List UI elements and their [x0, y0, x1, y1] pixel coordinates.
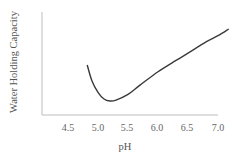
- x-tick-label: 5.0: [92, 122, 105, 133]
- chart-plot: [0, 0, 232, 162]
- y-axis-label: Water Holding Capacity: [8, 11, 19, 113]
- x-tick-label: 6.5: [181, 122, 194, 133]
- x-axis-label: pH: [119, 141, 132, 152]
- x-tick-label: 7.0: [212, 122, 225, 133]
- data-line: [87, 29, 229, 101]
- x-tick-label: 5.5: [121, 122, 134, 133]
- x-tick-label: 4.5: [62, 122, 75, 133]
- x-tick-label: 6.0: [151, 122, 164, 133]
